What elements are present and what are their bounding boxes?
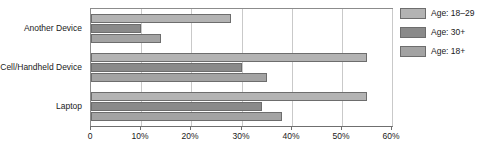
bar — [91, 102, 262, 111]
chart-legend: Age: 18–29Age: 30+Age: 18+ — [396, 8, 486, 65]
bar — [91, 73, 267, 82]
bar-chart: Another DeviceCell/Handheld DeviceLaptop… — [0, 0, 486, 148]
legend-swatch — [400, 27, 426, 38]
axis-tick — [190, 126, 191, 130]
bar — [91, 63, 242, 72]
axis-tick-label: 50% — [321, 131, 361, 141]
bar — [91, 92, 367, 101]
category-axis: Another DeviceCell/Handheld DeviceLaptop — [0, 8, 86, 125]
axis-tick — [241, 126, 242, 130]
axis-tick — [291, 126, 292, 130]
plot-area — [90, 8, 393, 127]
legend-item[interactable]: Age: 18–29 — [396, 8, 486, 21]
legend-label: Age: 30+ — [431, 27, 465, 38]
axis-tick-label: 0 — [70, 131, 110, 141]
legend-swatch — [400, 46, 426, 57]
category-label: Laptop — [0, 101, 82, 111]
axis-tick — [391, 126, 392, 130]
value-axis: 010%20%30%40%50%60% — [90, 126, 392, 146]
axis-tick-label: 20% — [170, 131, 210, 141]
bar — [91, 14, 231, 23]
axis-tick-label: 10% — [120, 131, 160, 141]
axis-tick-label: 30% — [221, 131, 261, 141]
legend-item[interactable]: Age: 18+ — [396, 46, 486, 59]
legend-label: Age: 18+ — [431, 46, 465, 57]
bar — [91, 53, 367, 62]
axis-tick-label: 60% — [371, 131, 411, 141]
gridline — [392, 9, 393, 126]
axis-tick — [341, 126, 342, 130]
bar — [91, 112, 282, 121]
bar-group — [91, 9, 392, 48]
category-label: Cell/Handheld Device — [0, 62, 82, 72]
category-label: Another Device — [0, 23, 82, 33]
bar-group — [91, 87, 392, 126]
bar — [91, 34, 161, 43]
legend-item[interactable]: Age: 30+ — [396, 27, 486, 40]
axis-tick — [90, 126, 91, 130]
bars-layer — [91, 9, 392, 126]
bar — [91, 24, 141, 33]
legend-swatch — [400, 8, 426, 19]
axis-tick — [140, 126, 141, 130]
axis-tick-label: 40% — [271, 131, 311, 141]
bar-group — [91, 48, 392, 87]
legend-label: Age: 18–29 — [431, 8, 474, 19]
